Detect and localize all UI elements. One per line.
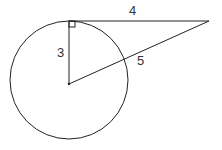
right-angle-marker bbox=[69, 21, 75, 27]
hypotenuse-label: 5 bbox=[137, 54, 144, 67]
circle-tangent-diagram bbox=[0, 0, 222, 150]
center-point bbox=[68, 83, 70, 85]
tangent-length-label: 4 bbox=[129, 4, 136, 17]
radius-label: 3 bbox=[57, 46, 64, 59]
